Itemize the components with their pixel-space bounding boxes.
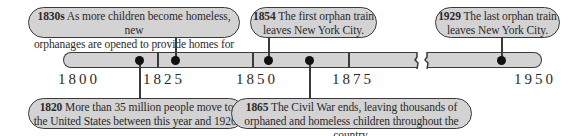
- connector-1854: [268, 37, 270, 57]
- connector-1865: [309, 60, 311, 98]
- event-text-line2: leaves New York City.: [436, 23, 559, 37]
- event-1830s-callout: 1830s As more children become homeless, …: [28, 7, 240, 38]
- tick-1875: [348, 52, 350, 68]
- event-text-line2: orphaned and homeless children throughou…: [232, 114, 471, 136]
- event-text: The last orphan train: [463, 10, 556, 22]
- event-text: As more children become homeless, new: [67, 10, 231, 36]
- event-dot-1854: [264, 56, 273, 65]
- event-text: The first orphan train: [278, 10, 374, 22]
- axis-label-1825: 1825: [143, 71, 185, 88]
- connector-1929: [501, 37, 503, 57]
- timeline-bar-main: [63, 52, 417, 68]
- event-1820-callout: 1820 More than 35 million people move to…: [28, 98, 245, 129]
- event-year: 1830s: [38, 10, 65, 22]
- event-text: The Civil War ends, leaving thousands of: [271, 101, 457, 113]
- event-dot-1830s: [171, 56, 180, 65]
- axis-label-1950: 1950: [514, 71, 556, 88]
- axis-label-1800: 1800: [58, 71, 100, 88]
- connector-1830s: [175, 37, 177, 57]
- tick-1825: [157, 52, 159, 68]
- event-year: 1929: [438, 10, 461, 22]
- timeline-bar-end: [427, 52, 542, 68]
- event-1854-callout: 1854 The first orphan train leaves New Y…: [250, 7, 377, 38]
- event-1865-callout: 1865 The Civil War ends, leaving thousan…: [231, 98, 472, 129]
- event-year: 1820: [40, 101, 63, 113]
- event-text-line2: the United States between this year and …: [29, 114, 244, 128]
- event-dot-1865: [305, 56, 314, 65]
- event-text-line2: leaves New York City.: [251, 23, 376, 37]
- event-dot-1929: [497, 56, 506, 65]
- connector-1820: [139, 60, 141, 98]
- axis-label-1850: 1850: [236, 71, 278, 88]
- event-1929-callout: 1929 The last orphan train leaves New Yo…: [435, 7, 560, 38]
- event-year: 1854: [253, 10, 276, 22]
- event-text: More than 35 million people move to: [65, 101, 233, 113]
- tick-1850: [252, 52, 254, 68]
- event-year: 1865: [246, 101, 269, 113]
- timeline-break-icon: [412, 51, 432, 70]
- event-dot-1820: [135, 56, 144, 65]
- axis-label-1875: 1875: [332, 71, 374, 88]
